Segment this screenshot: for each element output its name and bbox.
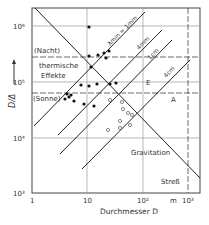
a-label: A (171, 96, 176, 104)
open-points (106, 98, 133, 131)
x-unit: m (170, 197, 177, 205)
y-axis-label: D/Δ (8, 94, 17, 108)
x-axis-label: Durchmesser D (100, 207, 158, 216)
y-tick-6: 10⁶ (13, 23, 25, 31)
thermische-label-1: thermische (39, 62, 78, 70)
lambda-1cm-label: 1cm (146, 46, 160, 60)
sonne-label: (Sonne) (33, 95, 61, 103)
x-tick-100: 10² (137, 197, 149, 205)
x-tick-1000: 10³ (182, 197, 194, 205)
y-tick-4: 10⁴ (13, 135, 25, 143)
chart: (Nacht) thermische Effekte (Sonne) λmin … (0, 0, 209, 225)
stress-label: Streß (161, 178, 180, 186)
e-label: E (146, 79, 150, 87)
y-tick-5: 10⁵ (13, 79, 25, 87)
x-tick-1: 1 (30, 197, 34, 205)
thermische-label-2: Effekte (41, 72, 66, 80)
nacht-label: (Nacht) (34, 47, 60, 55)
x-tick-10: 10 (83, 197, 92, 205)
arrow-head-icon (12, 59, 16, 64)
gravitation-label: Gravitation (131, 149, 170, 157)
y-tick-3: 10³ (13, 190, 25, 198)
lambda-1mm-label: λmin = 1mm (106, 14, 139, 47)
